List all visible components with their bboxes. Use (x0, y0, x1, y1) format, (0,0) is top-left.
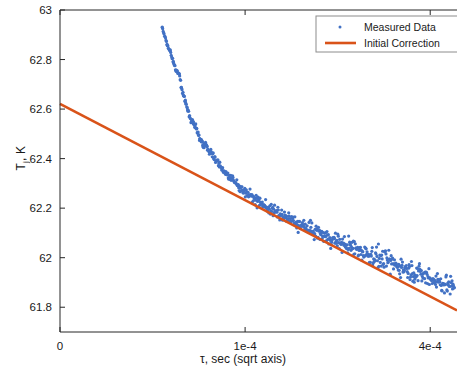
y-tick-label: 61.8 (30, 301, 52, 313)
y-tick-label: 63 (39, 4, 52, 16)
legend-entry-label: Initial Correction (364, 37, 440, 49)
figure-chart: 61.86262.262.462.662.86301e-44e-4 Measur… (0, 0, 457, 378)
y-tick-label: 62.6 (30, 103, 52, 115)
y-axis-label-text: Tj, K (14, 146, 28, 171)
x-tick-label: 1e-4 (234, 340, 258, 352)
y-tick-label: 62.8 (30, 54, 52, 66)
y-axis-label: Tj, K (14, 118, 30, 198)
legend-marker-point (339, 26, 342, 29)
y-tick-label: 62 (39, 252, 52, 264)
plot-area-background (60, 10, 457, 332)
y-tick-label: 62.2 (30, 202, 52, 214)
x-tick-label: 0 (57, 340, 63, 352)
y-tick-label: 62.4 (30, 153, 53, 165)
x-axis-label: τ, sec (sqrt axis) (60, 352, 426, 366)
chart-canvas: 61.86262.262.462.662.86301e-44e-4 Measur… (0, 0, 457, 378)
x-axis-label-text: τ, sec (sqrt axis) (200, 352, 286, 366)
x-tick-label: 4e-4 (419, 340, 443, 352)
legend-entry-label: Measured Data (364, 21, 436, 33)
chart-legend: Measured DataInitial Correction (316, 16, 457, 52)
